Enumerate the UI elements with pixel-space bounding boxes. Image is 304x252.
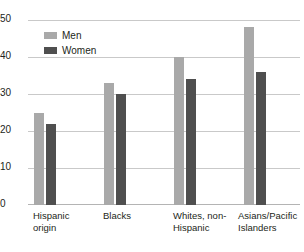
y-tick-20: 20 [0,125,24,135]
legend-label-men: Men [62,30,81,41]
x-label-line1: Whites, non- [173,210,245,222]
legend: Men Women [44,28,96,58]
x-label-whites-non-hispanic: Whites, non- Hispanic [173,210,245,233]
x-label-line1: Hispanic [33,210,105,222]
y-tick-0: 0 [0,199,24,209]
bar-men-asians-pacific-islanders [244,27,254,205]
x-label-line2: Islanders [238,222,304,234]
y-tick-40: 40 [0,51,24,61]
bar-men-whites-non-hispanic [174,57,184,205]
bar-men-blacks [104,83,114,205]
bar-women-asians-pacific-islanders [256,72,266,205]
y-tick-50: 50 [0,14,24,24]
bar-chart: 50 40 30 20 10 0 [0,0,304,252]
bar-men-hispanic-origin [34,113,44,206]
x-label-line2: Hispanic [173,222,245,234]
x-label-line1: Blacks [103,210,175,222]
legend-item-men: Men [44,28,96,43]
gridline-50 [28,20,300,21]
bar-women-blacks [116,94,126,205]
x-label-line2: origin [33,222,105,234]
legend-item-women: Women [44,43,96,58]
y-tick-10: 10 [0,162,24,172]
legend-swatch-men [44,32,57,39]
y-tick-30: 30 [0,88,24,98]
x-label-hispanic-origin: Hispanic origin [33,210,105,233]
legend-swatch-women [44,47,57,54]
bar-women-whites-non-hispanic [186,79,196,205]
bar-women-hispanic-origin [46,124,56,205]
x-label-line1: Asians/Pacific [238,210,304,222]
x-label-asians-pacific-islanders: Asians/Pacific Islanders [238,210,304,233]
x-label-blacks: Blacks [103,210,175,222]
legend-label-women: Women [62,45,96,56]
